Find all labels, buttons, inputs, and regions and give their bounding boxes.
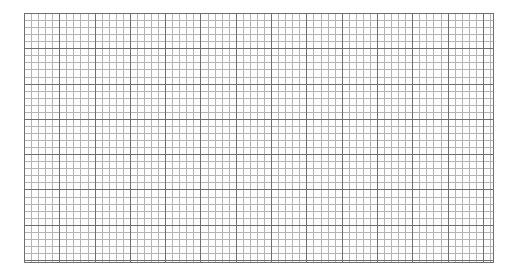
page-canvas [0, 0, 518, 280]
graph-paper-grid [24, 13, 494, 263]
